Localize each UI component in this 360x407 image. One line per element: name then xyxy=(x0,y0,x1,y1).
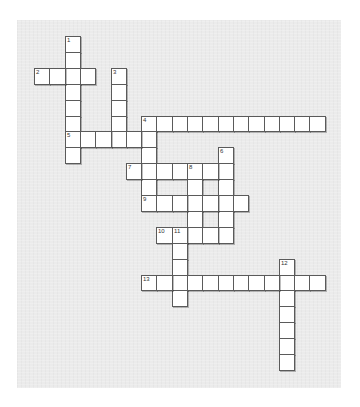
crossword-cell[interactable] xyxy=(172,275,188,291)
crossword-cell[interactable] xyxy=(218,163,234,180)
crossword-cell[interactable] xyxy=(156,163,173,180)
crossword-cell[interactable] xyxy=(156,275,173,291)
crossword-cell[interactable] xyxy=(187,275,203,291)
crossword-cell[interactable] xyxy=(65,68,81,85)
clue-number: 13 xyxy=(143,276,150,283)
crossword-cell[interactable] xyxy=(279,338,295,355)
crossword-cell[interactable] xyxy=(294,116,310,132)
crossword-cell[interactable] xyxy=(65,84,81,101)
crossword-cell[interactable] xyxy=(187,211,203,228)
crossword-cell[interactable] xyxy=(172,195,188,212)
crossword-cell[interactable] xyxy=(172,163,188,180)
crossword-cell[interactable]: 8 xyxy=(187,163,203,180)
crossword-cell[interactable] xyxy=(202,227,219,244)
crossword-cell[interactable]: 5 xyxy=(65,131,81,148)
clue-number: 9 xyxy=(143,196,146,203)
clue-number: 2 xyxy=(36,69,39,76)
clue-number: 6 xyxy=(220,148,223,155)
crossword-cell[interactable] xyxy=(233,195,249,212)
crossword-cell[interactable] xyxy=(279,116,295,132)
crossword-cell[interactable] xyxy=(264,275,280,291)
crossword-cell[interactable] xyxy=(218,211,234,228)
crossword-cell[interactable] xyxy=(202,275,219,291)
crossword-cell[interactable]: 2 xyxy=(34,68,50,85)
crossword-cell[interactable] xyxy=(156,116,173,132)
clue-number: 5 xyxy=(67,132,70,139)
clue-number: 8 xyxy=(189,164,192,171)
crossword-cell[interactable] xyxy=(111,116,127,132)
crossword-cell[interactable] xyxy=(95,131,112,148)
crossword-cell[interactable] xyxy=(156,195,173,212)
crossword-cell[interactable] xyxy=(218,179,234,196)
crossword-cell[interactable] xyxy=(202,163,219,180)
crossword-cell[interactable] xyxy=(309,275,326,291)
crossword-cell[interactable] xyxy=(172,116,188,132)
crossword-cell[interactable] xyxy=(65,147,81,164)
crossword-cell[interactable] xyxy=(65,116,81,132)
crossword-cell[interactable] xyxy=(187,116,203,132)
crossword-cell[interactable]: 4 xyxy=(141,116,157,132)
crossword-cell[interactable] xyxy=(279,306,295,323)
crossword-cell[interactable]: 13 xyxy=(141,275,157,291)
crossword-cell[interactable] xyxy=(264,116,280,132)
crossword-cell[interactable] xyxy=(202,116,219,132)
crossword-cell[interactable] xyxy=(111,84,127,101)
crossword-cell[interactable]: 12 xyxy=(279,259,295,276)
crossword-cell[interactable] xyxy=(187,227,203,244)
crossword-cell[interactable] xyxy=(80,131,96,148)
clue-number: 4 xyxy=(143,117,146,124)
crossword-cell[interactable] xyxy=(202,195,219,212)
crossword-cell[interactable] xyxy=(187,179,203,196)
crossword-cell[interactable] xyxy=(279,290,295,307)
crossword-cell[interactable] xyxy=(65,100,81,117)
crossword-cell[interactable] xyxy=(80,68,96,85)
crossword-cell[interactable] xyxy=(141,131,157,148)
clue-number: 11 xyxy=(174,228,180,235)
crossword-cell[interactable]: 7 xyxy=(126,163,142,180)
crossword-cell[interactable]: 1 xyxy=(65,36,81,53)
crossword-cell[interactable] xyxy=(233,116,249,132)
crossword-cell[interactable] xyxy=(218,227,234,244)
crossword-cell[interactable] xyxy=(309,116,326,132)
crossword-cell[interactable] xyxy=(233,275,249,291)
clue-number: 7 xyxy=(128,164,131,171)
clue-number: 12 xyxy=(281,260,288,267)
crossword-cell[interactable] xyxy=(111,131,127,148)
crossword-cell[interactable] xyxy=(65,52,81,69)
crossword-cell[interactable]: 9 xyxy=(141,195,157,212)
crossword-cell[interactable] xyxy=(49,68,66,85)
crossword-cell[interactable] xyxy=(141,163,157,180)
crossword-cell[interactable] xyxy=(279,322,295,339)
crossword-cell[interactable] xyxy=(172,259,188,276)
crossword-cell[interactable] xyxy=(279,275,295,291)
crossword-cell[interactable] xyxy=(141,147,157,164)
crossword-cell[interactable]: 6 xyxy=(218,147,234,164)
crossword-cell[interactable] xyxy=(248,275,265,291)
clue-number: 1 xyxy=(67,37,70,44)
crossword-cell[interactable] xyxy=(172,290,188,307)
crossword-cell[interactable] xyxy=(279,354,295,371)
crossword-cell[interactable]: 10 xyxy=(156,227,173,244)
crossword-cell[interactable] xyxy=(294,275,310,291)
crossword-cell[interactable] xyxy=(218,195,234,212)
crossword-cell[interactable] xyxy=(218,275,234,291)
crossword-cell[interactable] xyxy=(187,195,203,212)
clue-number: 10 xyxy=(158,228,165,235)
crossword-cell[interactable] xyxy=(218,116,234,132)
crossword-grid: 15234967810111213 xyxy=(0,0,360,407)
crossword-cell[interactable] xyxy=(141,179,157,196)
clue-number: 3 xyxy=(113,69,116,76)
crossword-cell[interactable] xyxy=(111,100,127,117)
crossword-cell[interactable] xyxy=(248,116,265,132)
crossword-cell[interactable] xyxy=(172,243,188,260)
crossword-cell[interactable]: 11 xyxy=(172,227,188,244)
crossword-cell[interactable]: 3 xyxy=(111,68,127,85)
crossword-cell[interactable] xyxy=(126,131,142,148)
